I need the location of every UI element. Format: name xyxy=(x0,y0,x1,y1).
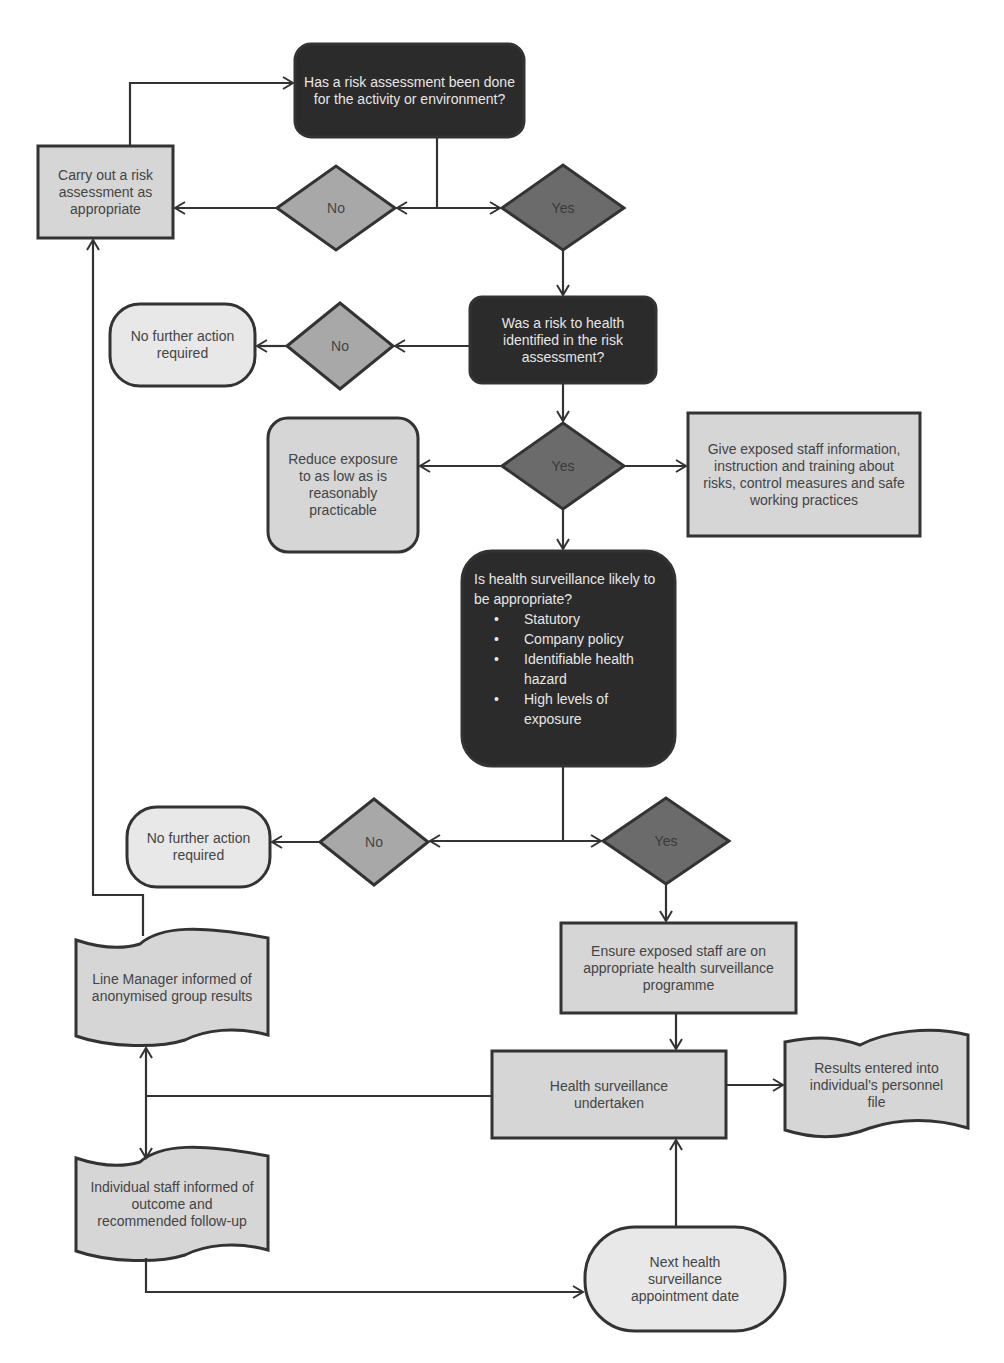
decision-yes-3: Yes xyxy=(502,423,624,509)
health-surveillance-undertaken: Health surveillance undertaken xyxy=(492,1051,726,1138)
line-manager-informed: Line Manager informed of anonymised grou… xyxy=(76,945,268,1030)
q-health-surveillance: Is health surveillance likely to be appr… xyxy=(462,551,675,766)
no-further-action-1: No further action required xyxy=(110,304,255,386)
q-risk-assessment: Has a risk assessment been done for the … xyxy=(295,44,524,137)
decision-no-2: No xyxy=(287,303,393,389)
surveillance-question: Is health surveillance likely to be appr… xyxy=(472,569,665,609)
surveillance-criteria: Statutory Company policy Identifiable he… xyxy=(472,609,665,729)
criterion-company-policy: Company policy xyxy=(472,629,665,649)
reduce-exposure: Reduce exposure to as low as is reasonab… xyxy=(268,418,418,552)
criterion-statutory: Statutory xyxy=(472,609,665,629)
carry-out-risk-assessment: Carry out a risk assessment as appropria… xyxy=(38,146,173,238)
decision-yes-4: Yes xyxy=(603,798,729,884)
next-appointment-date: Next health surveillance appointment dat… xyxy=(585,1227,785,1331)
give-staff-information: Give exposed staff information, instruct… xyxy=(688,413,920,536)
no-further-action-2: No further action required xyxy=(127,807,270,887)
ensure-surveillance-programme: Ensure exposed staff are on appropriate … xyxy=(561,923,796,1013)
individual-staff-informed: Individual staff informed of outcome and… xyxy=(76,1162,268,1247)
results-personnel-file: Results entered into individual's person… xyxy=(785,1045,968,1125)
decision-no-1: No xyxy=(277,166,395,250)
decision-yes-1: Yes xyxy=(502,165,624,250)
decision-no-4: No xyxy=(320,799,428,885)
criterion-identifiable-hazard: Identifiable health hazard xyxy=(472,649,665,689)
criterion-high-exposure: High levels of exposure xyxy=(472,689,665,729)
q-risk-health: Was a risk to health identified in the r… xyxy=(470,297,656,383)
